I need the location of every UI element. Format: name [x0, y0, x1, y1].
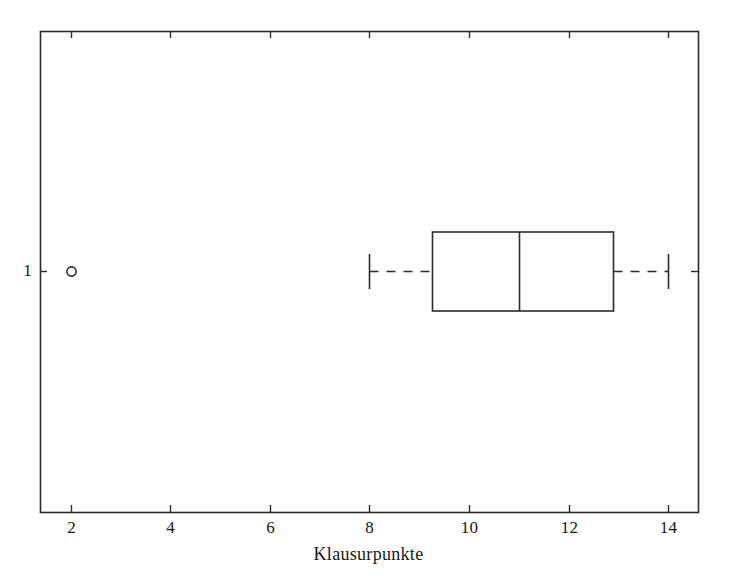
- outlier-point: [67, 267, 76, 276]
- x-axis-tick-label: 6: [266, 518, 275, 538]
- boxplot-canvas: [0, 0, 730, 572]
- box-rect: [433, 232, 614, 311]
- boxplot-figure: 24681012141 Klausurpunkte: [0, 0, 730, 572]
- x-axis-tick-label: 12: [561, 518, 578, 538]
- y-axis-tick-label: 1: [12, 261, 32, 281]
- x-axis-title: Klausurpunkte: [314, 544, 424, 565]
- x-axis-tick-label: 10: [461, 518, 478, 538]
- x-axis-tick-label: 4: [166, 518, 175, 538]
- x-axis-tick-label: 14: [660, 518, 677, 538]
- x-axis-tick-label: 2: [67, 518, 76, 538]
- x-axis-tick-label: 8: [365, 518, 374, 538]
